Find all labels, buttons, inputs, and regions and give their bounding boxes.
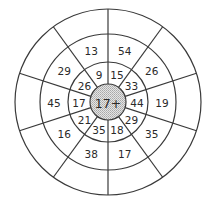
inner-ring-cell: 21 — [78, 114, 91, 126]
inner-ring-cell: 33 — [125, 80, 138, 92]
number-wheel-diagram: 17+ 153344291835211726954261935173816452… — [0, 0, 209, 197]
middle-ring-cell: 13 — [85, 45, 98, 57]
middle-ring-cell: 26 — [145, 65, 159, 77]
inner-ring-cell: 29 — [125, 114, 138, 126]
middle-ring-cell: 19 — [155, 97, 168, 109]
middle-ring-cell: 54 — [118, 45, 132, 57]
inner-ring-cell: 44 — [130, 97, 144, 109]
middle-ring-cell: 45 — [47, 97, 60, 109]
inner-ring-cell: 18 — [110, 124, 123, 136]
inner-ring-cell: 26 — [78, 80, 92, 92]
middle-ring-cell: 38 — [85, 148, 98, 160]
middle-ring-cell: 16 — [58, 128, 72, 140]
middle-ring-cell: 29 — [58, 65, 71, 77]
middle-ring-cell: 17 — [118, 148, 131, 160]
inner-ring-cell: 9 — [96, 69, 103, 81]
center-hub: 17+ — [90, 84, 126, 120]
inner-ring-cell: 17 — [72, 97, 85, 109]
middle-ring-cell: 35 — [145, 128, 158, 140]
inner-ring-cell: 35 — [92, 124, 105, 136]
center-label: 17+ — [95, 96, 121, 111]
inner-ring-cell: 15 — [110, 69, 123, 81]
